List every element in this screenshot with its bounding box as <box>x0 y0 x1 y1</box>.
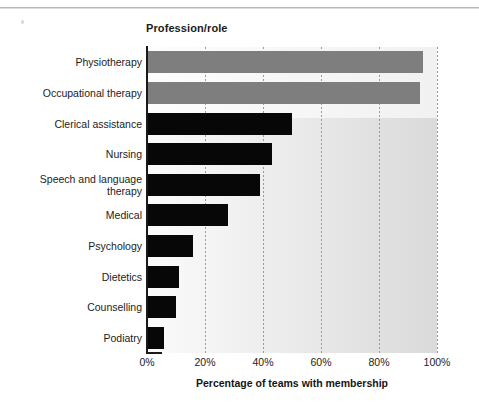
y-axis-label-dietetics: Dietetics <box>7 271 142 283</box>
y-axis-label-nursing: Nursing <box>7 148 142 160</box>
x-tick-40pct: 40% <box>252 356 273 368</box>
bar-medical <box>147 204 228 226</box>
y-axis-label-counselling: Counselling <box>7 301 142 313</box>
y-axis-label-physiotherapy: Physiotherapy <box>7 56 142 68</box>
bar-dietetics <box>147 266 179 288</box>
bar-occupational-therapy <box>147 82 420 104</box>
x-tick-80pct: 80% <box>368 356 389 368</box>
page-top-rule-shadow <box>0 8 479 9</box>
x-tick-100pct: 100% <box>424 356 451 368</box>
y-axis-line <box>146 46 148 354</box>
y-axis-label-speech-and-language-therapy: Speech and language therapy <box>7 173 142 197</box>
bar-counselling <box>147 296 176 318</box>
bar-clerical-assistance <box>147 113 292 135</box>
x-axis-tick-labels: 0%20%40%60%80%100% <box>147 356 447 372</box>
bar-nursing <box>147 143 272 165</box>
bar-podiatry <box>147 327 164 349</box>
y-axis-label-podiatry: Podiatry <box>7 332 142 344</box>
chart-page: Profession/role PhysiotherapyOccupationa… <box>0 0 479 410</box>
x-tick-0pct: 0% <box>139 356 154 368</box>
chart-title: Profession/role <box>146 22 228 34</box>
y-axis-label-occupational-therapy: Occupational therapy <box>7 87 142 99</box>
bar-physiotherapy <box>147 51 423 73</box>
y-axis-label-clerical-assistance: Clerical assistance <box>7 118 142 130</box>
x-tick-60pct: 60% <box>310 356 331 368</box>
gridline-100pct <box>437 47 438 353</box>
x-tick-20pct: 20% <box>194 356 215 368</box>
x-axis-title: Percentage of teams with membership <box>147 377 437 389</box>
y-axis-label-medical: Medical <box>7 209 142 221</box>
plot-area <box>147 47 437 353</box>
y-axis-category-labels: PhysiotherapyOccupational therapyClerica… <box>4 47 142 353</box>
scan-artifact-speck <box>21 20 24 24</box>
y-axis-label-psychology: Psychology <box>7 240 142 252</box>
bar-speech-and-language-therapy <box>147 174 260 196</box>
bar-psychology <box>147 235 193 257</box>
x-axis-origin-tick <box>146 352 162 354</box>
